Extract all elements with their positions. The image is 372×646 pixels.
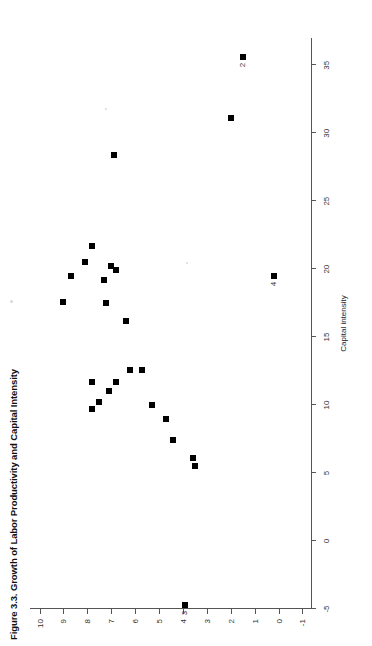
x-tick-label: -5 <box>322 605 331 612</box>
x-axis-line <box>311 38 312 609</box>
x-tick-label: 20 <box>322 265 331 274</box>
data-point <box>96 399 102 405</box>
data-point <box>127 367 133 373</box>
x-tick-mark <box>311 336 316 337</box>
x-tick-mark <box>311 268 316 269</box>
scatter-plot-area: -505101520253035 -1012345678910 243 Capi… <box>30 38 312 609</box>
data-point <box>190 455 196 461</box>
x-tick-label: 10 <box>322 401 331 410</box>
x-tick-mark <box>311 64 316 65</box>
y-tick-mark <box>135 608 136 614</box>
scan-speckle <box>186 262 188 264</box>
data-point <box>163 416 169 422</box>
y-tick-label: 1 <box>250 619 259 623</box>
y-tick-label: 10 <box>35 619 44 628</box>
data-point <box>123 318 129 324</box>
data-point <box>101 277 107 283</box>
y-tick-label: 3 <box>202 619 211 623</box>
data-point <box>68 273 74 279</box>
y-axis-line <box>30 608 312 609</box>
y-tick-mark <box>159 608 160 614</box>
y-tick-label: 7 <box>107 619 116 623</box>
data-point <box>89 243 95 249</box>
data-point <box>240 54 246 60</box>
data-point <box>82 259 88 265</box>
data-point <box>113 379 119 385</box>
scan-speckle <box>105 108 107 110</box>
x-tick-mark <box>311 540 316 541</box>
x-tick-label: 35 <box>322 61 331 70</box>
y-tick-mark <box>231 608 232 614</box>
y-tick-label: 0 <box>274 619 283 623</box>
data-point <box>106 388 112 394</box>
x-tick-label: 5 <box>322 471 331 475</box>
y-tick-label: 4 <box>178 619 187 623</box>
x-axis-label: Capital intensity <box>339 295 348 351</box>
y-tick-label: 2 <box>226 619 235 623</box>
data-point <box>89 379 95 385</box>
x-tick-mark <box>311 472 316 473</box>
y-tick-label: 5 <box>155 619 164 623</box>
y-tick-mark <box>302 608 303 614</box>
data-point <box>60 299 66 305</box>
data-point <box>170 437 176 443</box>
data-point <box>89 406 95 412</box>
y-tick-mark <box>63 608 64 614</box>
y-tick-label: 9 <box>59 619 68 623</box>
y-tick-label: 6 <box>131 619 140 623</box>
data-point <box>103 300 109 306</box>
x-tick-label: 30 <box>322 129 331 138</box>
data-point <box>271 273 277 279</box>
data-point-label: 2 <box>237 63 246 67</box>
y-tick-label: 8 <box>83 619 92 623</box>
data-point <box>149 402 155 408</box>
y-tick-mark <box>279 608 280 614</box>
data-point <box>139 367 145 373</box>
figure-container: Figure 3.3. Growth of Labor Productivity… <box>0 0 372 646</box>
rotated-page-wrapper: Figure 3.3. Growth of Labor Productivity… <box>0 0 372 646</box>
x-tick-mark <box>311 132 316 133</box>
y-tick-mark <box>111 608 112 614</box>
x-tick-mark <box>311 200 316 201</box>
data-point-label: 4 <box>268 282 277 286</box>
x-tick-label: 25 <box>322 197 331 206</box>
data-point <box>182 602 188 608</box>
y-tick-mark <box>255 608 256 614</box>
x-tick-mark <box>311 608 316 609</box>
data-point-label: 3 <box>180 611 189 615</box>
scan-speckle <box>10 300 13 303</box>
data-point <box>111 152 117 158</box>
y-tick-label: -1 <box>298 619 307 626</box>
data-point <box>228 115 234 121</box>
y-tick-mark <box>40 608 41 614</box>
data-point <box>113 267 119 273</box>
x-tick-label: 0 <box>322 539 331 543</box>
data-point <box>192 463 198 469</box>
x-tick-label: 15 <box>322 333 331 342</box>
y-tick-mark <box>87 608 88 614</box>
x-tick-mark <box>311 404 316 405</box>
figure-title: Figure 3.3. Growth of Labor Productivity… <box>8 369 19 640</box>
y-tick-mark <box>207 608 208 614</box>
